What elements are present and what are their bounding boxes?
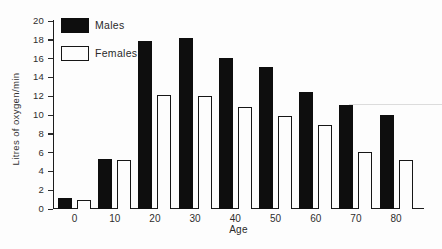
females-swatch-icon xyxy=(61,46,89,61)
male-bar-age-50 xyxy=(259,67,273,209)
bar-group-age-70 xyxy=(339,21,372,209)
y-tick-mark xyxy=(48,58,53,59)
y-tick-mark xyxy=(48,39,53,40)
bar-group-age-60 xyxy=(299,21,332,209)
male-bar-age-10 xyxy=(98,159,112,209)
bar-group-age-20 xyxy=(138,21,171,209)
y-tick-mark xyxy=(48,209,53,210)
y-tick-label: 14 xyxy=(20,71,44,83)
y-tick-mark xyxy=(48,133,53,134)
bar-chart-figure: Litres of oxygen/min 02468101214161820 M… xyxy=(0,0,442,249)
y-tick-mark xyxy=(48,77,53,78)
female-bar-age-0 xyxy=(77,200,91,209)
y-tick-mark xyxy=(48,96,53,97)
scan-artifact-line xyxy=(349,104,442,105)
y-tick-label: 18 xyxy=(20,34,44,46)
males-swatch-icon xyxy=(61,18,89,33)
y-tick-label: 16 xyxy=(20,53,44,65)
legend-label-males: Males xyxy=(95,19,125,31)
y-axis-line xyxy=(53,20,54,209)
y-tick-label: 0 xyxy=(20,203,44,215)
x-tick-label-40: 40 xyxy=(220,213,250,224)
y-tick-mark xyxy=(48,190,53,191)
x-tick-label-80: 80 xyxy=(381,213,411,224)
male-bar-age-0 xyxy=(58,198,72,209)
y-tick-label: 12 xyxy=(20,90,44,102)
x-tick-label-10: 10 xyxy=(100,213,130,224)
female-bar-age-60 xyxy=(318,125,332,209)
x-tick-label-20: 20 xyxy=(140,213,170,224)
female-bar-age-40 xyxy=(238,107,252,209)
male-bar-age-40 xyxy=(219,58,233,209)
male-bar-age-70 xyxy=(339,105,353,209)
x-tick-label-60: 60 xyxy=(301,213,331,224)
legend-item-females: Females xyxy=(61,45,137,61)
y-tick-mark xyxy=(48,171,53,172)
bar-group-age-80 xyxy=(380,21,413,209)
female-bar-age-70 xyxy=(358,152,372,209)
bar-group-age-50 xyxy=(259,21,292,209)
bar-group-age-30 xyxy=(179,21,212,209)
y-axis-title: Litres of oxygen/min xyxy=(10,72,21,165)
x-axis-title: Age xyxy=(53,224,424,235)
x-tick-label-50: 50 xyxy=(261,213,291,224)
y-tick-label: 6 xyxy=(20,147,44,159)
y-tick-mark xyxy=(48,152,53,153)
male-bar-age-80 xyxy=(380,115,394,209)
y-tick-mark xyxy=(48,21,53,22)
male-bar-age-30 xyxy=(179,38,193,209)
legend-item-males: Males xyxy=(61,17,137,33)
y-tick-label: 20 xyxy=(20,15,44,27)
legend-label-females: Females xyxy=(95,47,137,59)
female-bar-age-10 xyxy=(117,160,131,209)
male-bar-age-60 xyxy=(299,92,313,209)
y-tick-label: 8 xyxy=(20,128,44,140)
female-bar-age-80 xyxy=(399,160,413,209)
female-bar-age-30 xyxy=(198,96,212,209)
y-tick-mark xyxy=(48,115,53,116)
x-tick-label-0: 0 xyxy=(60,213,90,224)
y-tick-label: 4 xyxy=(20,165,44,177)
y-tick-label: 10 xyxy=(20,109,44,121)
bar-group-age-40 xyxy=(219,21,252,209)
legend: Males Females xyxy=(61,17,137,73)
y-tick-label: 2 xyxy=(20,184,44,196)
female-bar-age-20 xyxy=(157,95,171,209)
male-bar-age-20 xyxy=(138,41,152,209)
x-tick-label-70: 70 xyxy=(341,213,371,224)
female-bar-age-50 xyxy=(278,116,292,209)
x-tick-label-30: 30 xyxy=(180,213,210,224)
